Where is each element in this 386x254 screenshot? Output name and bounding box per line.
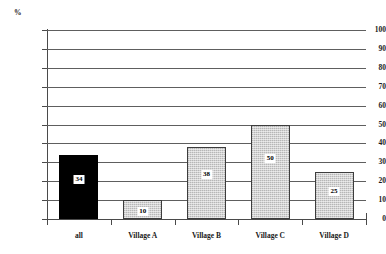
bar-value-label: 50 bbox=[265, 154, 276, 163]
bar: 50 bbox=[251, 125, 290, 220]
x-axis-end-cap bbox=[366, 213, 367, 220]
x-axis-tick-mark bbox=[111, 220, 112, 225]
plot-area: 3410385025 bbox=[47, 30, 366, 219]
bar-chart: % 0102030405060708090100 3410385025 allV… bbox=[0, 0, 386, 254]
bar: 34 bbox=[59, 155, 98, 219]
x-axis-tick-mark bbox=[47, 220, 48, 225]
gridline bbox=[47, 87, 366, 88]
gridline bbox=[47, 49, 366, 50]
y-axis-unit-label: % bbox=[14, 9, 22, 17]
bar-value-label: 10 bbox=[137, 207, 148, 216]
gridline bbox=[47, 68, 366, 69]
x-axis-tick-mark bbox=[366, 220, 367, 225]
bar-value-label: 38 bbox=[201, 170, 212, 179]
x-axis-line bbox=[47, 219, 367, 220]
gridline bbox=[47, 125, 366, 126]
bar: 38 bbox=[187, 147, 226, 219]
gridline bbox=[47, 106, 366, 107]
gridline bbox=[47, 30, 366, 31]
x-axis-category-label: Village D bbox=[289, 232, 379, 240]
x-axis-tick-mark bbox=[175, 220, 176, 225]
bar-value-label: 34 bbox=[73, 175, 84, 184]
bar: 10 bbox=[123, 200, 162, 219]
x-axis-tick-mark bbox=[302, 220, 303, 225]
x-axis-tick-mark bbox=[238, 220, 239, 225]
gridline bbox=[47, 143, 366, 144]
bar: 25 bbox=[315, 172, 354, 219]
bar-value-label: 25 bbox=[329, 187, 340, 196]
